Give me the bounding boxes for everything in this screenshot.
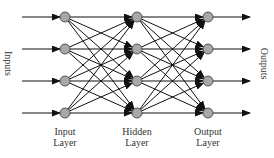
hidden-node bbox=[132, 44, 142, 54]
input-node bbox=[60, 44, 70, 54]
hidden-layer-label: Hidden Layer bbox=[107, 126, 167, 148]
hidden-node bbox=[132, 76, 142, 86]
outputs-label: Outputs bbox=[259, 48, 270, 80]
input-layer-label-line1: Input bbox=[35, 126, 95, 137]
hidden-node bbox=[132, 12, 142, 22]
output-node bbox=[203, 44, 213, 54]
input-node bbox=[60, 12, 70, 22]
inputs-label: Inputs bbox=[3, 51, 14, 76]
input-layer-label-line2: Layer bbox=[35, 137, 95, 148]
input-layer-label: Input Layer bbox=[35, 126, 95, 148]
output-node bbox=[203, 108, 213, 118]
hidden-node bbox=[132, 108, 142, 118]
output-layer-label: Output Layer bbox=[178, 126, 238, 148]
input-node bbox=[60, 108, 70, 118]
output-node bbox=[203, 12, 213, 22]
hidden-layer-label-line1: Hidden bbox=[107, 126, 167, 137]
output-layer-label-line2: Layer bbox=[178, 137, 238, 148]
output-layer-label-line1: Output bbox=[178, 126, 238, 137]
hidden-layer-label-line2: Layer bbox=[107, 137, 167, 148]
output-node bbox=[203, 76, 213, 86]
input-node bbox=[60, 76, 70, 86]
